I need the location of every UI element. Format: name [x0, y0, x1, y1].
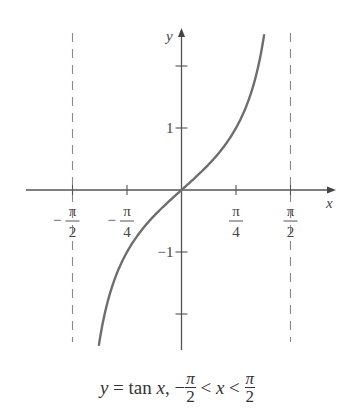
- svg-text:π: π: [123, 203, 131, 219]
- caption-lt: <: [196, 377, 216, 398]
- y-tick-label: 1: [166, 120, 174, 136]
- svg-text:4: 4: [123, 224, 131, 240]
- chart-caption: y = tan x, −π2 < x < π2: [0, 372, 355, 407]
- x-tick-label: π2−: [53, 203, 79, 240]
- svg-text:4: 4: [232, 224, 240, 240]
- caption-lt2: <: [224, 377, 244, 398]
- caption-comma: , −: [165, 377, 185, 398]
- svg-text:−: −: [108, 212, 116, 228]
- y-axis-label: y: [164, 28, 173, 44]
- y-tick-label: −1: [158, 244, 174, 260]
- svg-text:2: 2: [69, 224, 77, 240]
- caption-frac-2: π2: [245, 370, 256, 405]
- x-tick-label: π4−: [108, 203, 134, 240]
- x-tick-label: π2: [284, 203, 298, 240]
- tan-chart: π2−π4−π4π21−1 x y: [0, 0, 355, 370]
- x-axis-label: x: [325, 195, 333, 211]
- x-tick-label: π4: [229, 203, 243, 240]
- svg-text:2: 2: [287, 224, 295, 240]
- y-axis-arrow-icon: [178, 28, 185, 37]
- x-axis-arrow-icon: [327, 187, 336, 194]
- svg-text:π: π: [69, 203, 77, 219]
- svg-text:−: −: [53, 212, 61, 228]
- svg-text:π: π: [232, 203, 240, 219]
- caption-x: x: [157, 377, 165, 398]
- caption-eq: = tan: [108, 377, 156, 398]
- caption-frac-1: π2: [185, 370, 196, 405]
- svg-text:π: π: [287, 203, 295, 219]
